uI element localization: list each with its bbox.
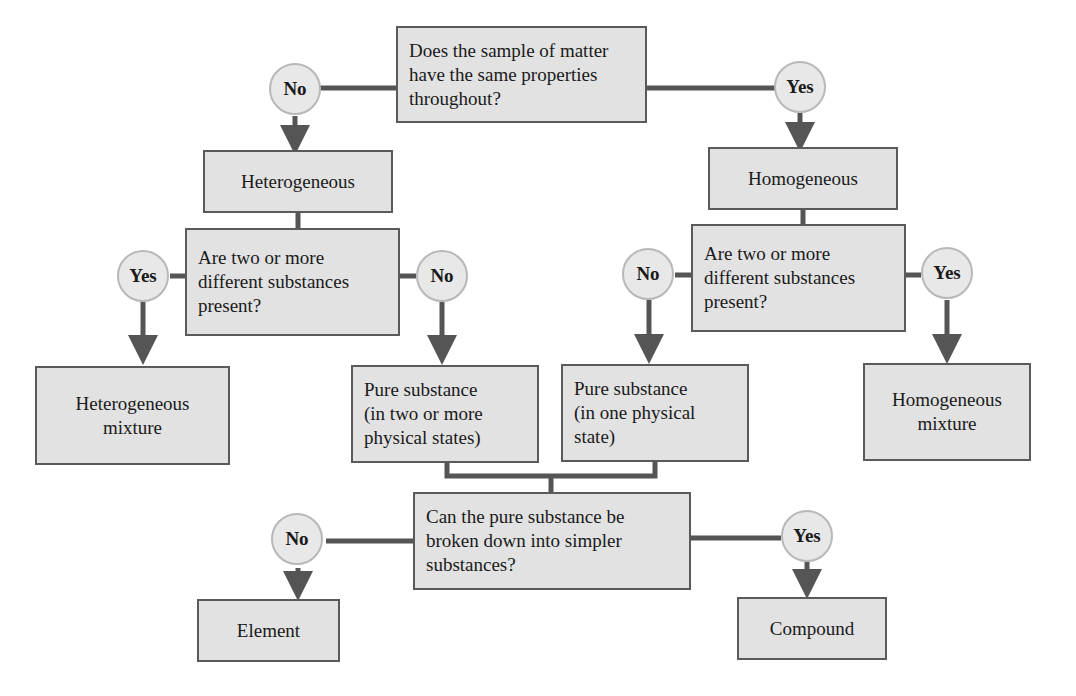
pure-substance-multi-state-box: Pure substance (in two or more physical … [351,365,539,463]
compound-box: Compound [737,597,887,660]
question-substances-left: Are two or more different substances pre… [185,228,400,336]
heterogeneous-box: Heterogeneous [203,150,393,213]
pure-substance-one-state-box: Pure substance (in one physical state) [561,364,749,462]
answer-yes-q1: Yes [774,61,826,113]
answer-no-q1: No [269,63,321,115]
question-same-properties: Does the sample of matter have the same … [396,26,647,123]
answer-no-q2-right: No [622,248,674,300]
answer-yes-q3: Yes [781,510,833,562]
answer-yes-q2-right: Yes [921,247,973,299]
element-box: Element [197,599,340,662]
question-substances-right: Are two or more different substances pre… [691,224,906,332]
answer-yes-q2-left: Yes [117,250,169,302]
answer-no-q2-left: No [416,250,468,302]
question-same-properties-text: Does the sample of matter have the same … [409,39,608,111]
question-broken-down: Can the pure substance be broken down in… [413,492,691,590]
answer-no-q3: No [271,513,323,565]
homogeneous-mixture-box: Homogeneous mixture [863,363,1031,461]
homogeneous-box: Homogeneous [708,147,898,210]
heterogeneous-mixture-box: Heterogeneous mixture [35,366,230,465]
